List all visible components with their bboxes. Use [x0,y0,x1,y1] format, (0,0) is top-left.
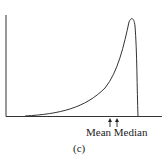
mean-median-label: Mean Median [86,126,147,138]
density-curve [25,19,138,116]
figure-caption: (c) [73,142,85,154]
